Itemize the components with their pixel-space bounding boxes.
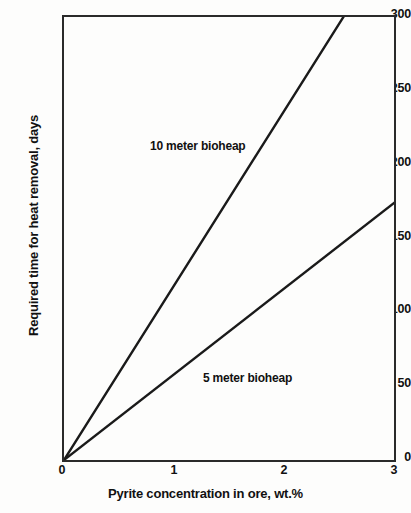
y-axis-title: Required time for heat removal, days xyxy=(26,36,41,416)
annotation-10-meter-bioheap: 10 meter bioheap xyxy=(150,139,246,153)
series-line-10-meter-bioheap xyxy=(64,17,343,460)
x-tick-label-0: 0 xyxy=(47,464,77,477)
chart-figure: 300 250 200 150 100 50 0 0 1 2 3 10 mete… xyxy=(0,0,411,513)
x-tick-label-1: 1 xyxy=(159,464,189,477)
x-axis-title: Pyrite concentration in ore, wt.% xyxy=(0,486,411,501)
annotation-5-meter-bioheap: 5 meter bioheap xyxy=(203,371,292,385)
x-tick-label-3: 3 xyxy=(379,464,409,477)
data-lines-svg xyxy=(64,17,394,460)
series-line-5-meter-bioheap xyxy=(64,203,394,460)
plot-area xyxy=(62,15,396,462)
x-tick-label-2: 2 xyxy=(269,464,299,477)
